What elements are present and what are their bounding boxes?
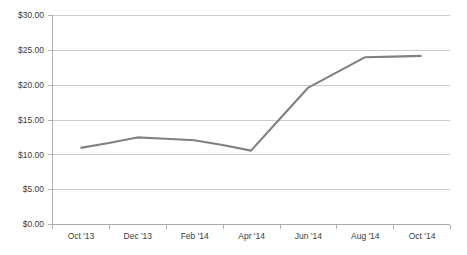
- gridlines: [52, 16, 450, 225]
- y-tick-label: $30.00: [18, 10, 44, 20]
- x-tick-label: Oct '13: [68, 231, 95, 241]
- x-tick-label: Dec '13: [124, 231, 153, 241]
- x-tick-label: Apr '14: [238, 231, 265, 241]
- y-tick-label: $5.00: [23, 184, 45, 194]
- x-tickmarks: [53, 225, 451, 230]
- x-axis-labels: Oct '13 Dec '13 Feb '14 Apr '14 Jun '14 …: [68, 231, 436, 241]
- y-tick-label: $25.00: [18, 45, 44, 55]
- chart-canvas: $30.00 $25.00 $20.00 $15.00 $10.00 $5.00…: [0, 0, 467, 255]
- x-tick-label: Oct '14: [409, 231, 436, 241]
- y-tick-label: $15.00: [18, 115, 44, 125]
- y-tick-label: $10.00: [18, 150, 44, 160]
- x-tick-label: Jun '14: [295, 231, 322, 241]
- y-tick-label: $0.00: [23, 219, 45, 229]
- y-tickmarks: [48, 16, 52, 225]
- line-chart: $30.00 $25.00 $20.00 $15.00 $10.00 $5.00…: [0, 0, 467, 255]
- y-tick-label: $20.00: [18, 80, 44, 90]
- data-series-line: [80, 56, 421, 151]
- y-axis-labels: $30.00 $25.00 $20.00 $15.00 $10.00 $5.00…: [18, 10, 44, 229]
- x-tick-label: Feb '14: [181, 231, 209, 241]
- x-tick-label: Aug '14: [351, 231, 380, 241]
